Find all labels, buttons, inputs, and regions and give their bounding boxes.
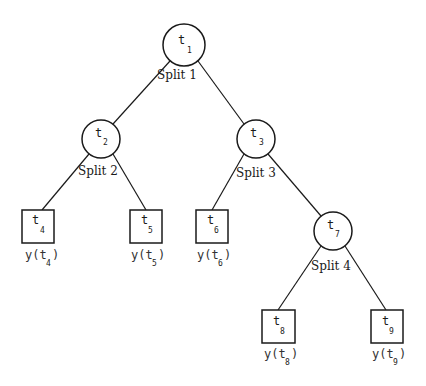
node-symbol: t xyxy=(141,213,148,227)
edge-t3-t7 xyxy=(268,154,321,216)
node-index: 5 xyxy=(148,226,153,235)
terminal-value-label: y(t xyxy=(131,248,153,262)
close-paren: ) xyxy=(52,248,59,262)
node-index: 4 xyxy=(40,226,45,235)
node-index: 6 xyxy=(214,226,219,235)
node-index: 2 xyxy=(103,138,108,147)
node-t4: t 4 y(t 4 ) xyxy=(22,210,59,268)
edge-t2-t5 xyxy=(113,154,146,210)
node-symbol: t xyxy=(95,126,102,140)
node-symbol: t xyxy=(327,218,334,232)
terminal-value-label: y(t xyxy=(372,347,394,361)
close-paren: ) xyxy=(224,248,231,262)
terminal-value-index: 6 xyxy=(218,259,223,268)
edge-t7-t8 xyxy=(278,246,321,310)
terminal-value-index: 4 xyxy=(46,259,51,268)
terminal-value-label: y(t xyxy=(264,347,286,361)
tree-diagram: t 1 Split 1 t 2 Split 2 t 3 Split 3 t 7 … xyxy=(0,0,426,386)
node-t6: t 6 y(t 6 ) xyxy=(196,210,231,268)
split-label-3: Split 3 xyxy=(236,166,276,180)
node-index: 3 xyxy=(259,138,264,147)
split-label-1: Split 1 xyxy=(157,68,197,82)
node-index: 7 xyxy=(335,230,340,239)
node-symbol: t xyxy=(32,213,39,227)
terminal-value-index: 5 xyxy=(152,259,157,268)
node-t5: t 5 y(t 5 ) xyxy=(130,210,165,268)
node-t3: t 3 Split 3 xyxy=(236,120,276,180)
terminal-value-index: 9 xyxy=(393,358,398,367)
close-paren: ) xyxy=(158,248,165,262)
edge-t1-t3 xyxy=(198,61,244,124)
node-t7: t 7 Split 4 xyxy=(311,212,352,273)
close-paren: ) xyxy=(291,347,298,361)
split-label-2: Split 2 xyxy=(78,164,118,178)
node-t2: t 2 Split 2 xyxy=(78,120,120,178)
edge-t2-t4 xyxy=(42,154,89,210)
node-symbol: t xyxy=(207,213,214,227)
node-index: 1 xyxy=(187,46,192,55)
node-index: 8 xyxy=(280,327,285,336)
terminal-value-label: y(t xyxy=(197,248,219,262)
node-symbol: t xyxy=(273,314,280,328)
node-index: 9 xyxy=(389,327,394,336)
node-symbol: t xyxy=(382,314,389,328)
split-label-4: Split 4 xyxy=(311,259,351,273)
node-t8: t 8 y(t 8 ) xyxy=(262,310,298,367)
edge-t7-t9 xyxy=(345,246,386,310)
node-symbol: t xyxy=(178,33,185,47)
close-paren: ) xyxy=(399,347,406,361)
edge-t3-t6 xyxy=(212,154,244,210)
node-t9: t 9 y(t 9 ) xyxy=(371,310,406,367)
terminal-value-index: 8 xyxy=(285,358,290,367)
terminal-value-label: y(t xyxy=(25,248,47,262)
node-t1: t 1 Split 1 xyxy=(157,24,205,82)
node-symbol: t xyxy=(250,126,257,140)
